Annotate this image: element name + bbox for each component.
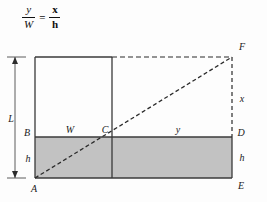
label-C: C <box>102 124 109 135</box>
shaded-band <box>35 137 232 178</box>
label-E: E <box>237 180 244 191</box>
figure-canvas: y W = x h <box>0 0 267 202</box>
dimension-arrowhead-bottom <box>12 171 18 178</box>
label-A: A <box>30 183 38 194</box>
dimension-arrowhead-top <box>12 57 18 64</box>
label-h-left: h <box>26 153 31 164</box>
label-W: W <box>66 124 76 135</box>
label-L: L <box>7 113 14 124</box>
label-h-right: h <box>240 152 245 163</box>
label-D: D <box>236 127 245 138</box>
label-F: F <box>238 41 246 52</box>
label-B: B <box>24 127 30 138</box>
label-x: x <box>239 93 245 104</box>
geometry-diagram: L B h A W C y F x D h E <box>0 0 267 202</box>
label-y: y <box>175 124 181 135</box>
